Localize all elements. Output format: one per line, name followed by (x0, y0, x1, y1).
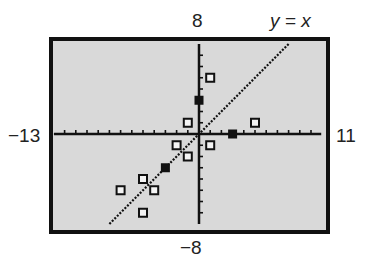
open-data-point (139, 209, 147, 217)
open-data-point (206, 141, 214, 149)
open-data-point (117, 186, 125, 194)
open-data-point (184, 119, 192, 127)
open-data-point (173, 141, 181, 149)
calculator-graph-screen (0, 0, 365, 274)
open-data-point (184, 153, 192, 161)
filled-data-point (195, 96, 204, 105)
filled-data-point (228, 130, 237, 139)
open-data-point (206, 74, 214, 82)
open-data-point (139, 175, 147, 183)
open-data-point (150, 186, 158, 194)
open-data-point (251, 119, 259, 127)
graph-window-frame (51, 39, 328, 232)
filled-data-point (161, 163, 170, 172)
